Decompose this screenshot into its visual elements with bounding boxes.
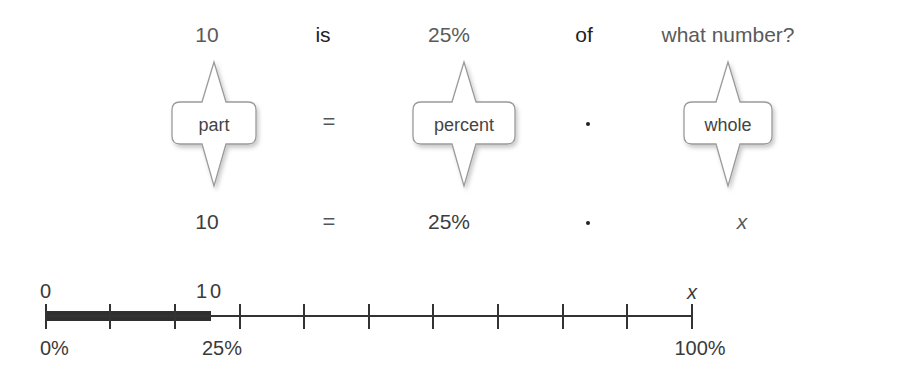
equation-equals-sign: = (323, 210, 336, 234)
callout-label-percent: percent (409, 114, 519, 136)
number-line-tick (109, 304, 111, 329)
number-line-tick (626, 304, 628, 329)
equals-sign: = (323, 110, 336, 134)
number-line-bottom-label-25-percent: 25% (202, 337, 242, 359)
number-line-tick (497, 304, 499, 329)
callout-label-part: part (168, 114, 260, 136)
equation-percent: 25% (428, 210, 470, 234)
number-line-tick (691, 304, 693, 329)
sentence-word-is: is (315, 23, 330, 47)
callout-label-whole: whole (680, 114, 776, 136)
number-line-tick (368, 304, 370, 329)
number-line-tick (239, 304, 241, 329)
callout-part: part (168, 60, 260, 190)
number-line-tick (303, 304, 305, 329)
sentence-word-of: of (575, 23, 593, 47)
equation-multiplication-dot (586, 221, 590, 225)
sentence-word-what-number: what number? (661, 23, 794, 47)
sentence-word-percent-value: 25% (428, 23, 470, 47)
number-line-bottom-label-100-percent: 100% (674, 337, 725, 359)
callout-percent: percent (409, 60, 519, 190)
number-line-bottom-label-0-percent: 0% (40, 337, 69, 359)
number-line-tick (45, 304, 47, 329)
callout-whole: whole (680, 60, 776, 190)
number-line-tick (174, 304, 176, 329)
equation-whole-variable: x (737, 210, 748, 234)
number-line-top-label-x: x (687, 281, 697, 303)
number-line-tick (562, 304, 564, 329)
number-line-tick (432, 304, 434, 329)
sentence-word-part-value: 10 (195, 23, 218, 47)
equation-part: 10 (195, 210, 218, 234)
number-line-top-label-10: 10 (196, 280, 224, 302)
number-line-top-label-0: 0 (40, 280, 51, 302)
multiplication-dot (586, 122, 590, 126)
